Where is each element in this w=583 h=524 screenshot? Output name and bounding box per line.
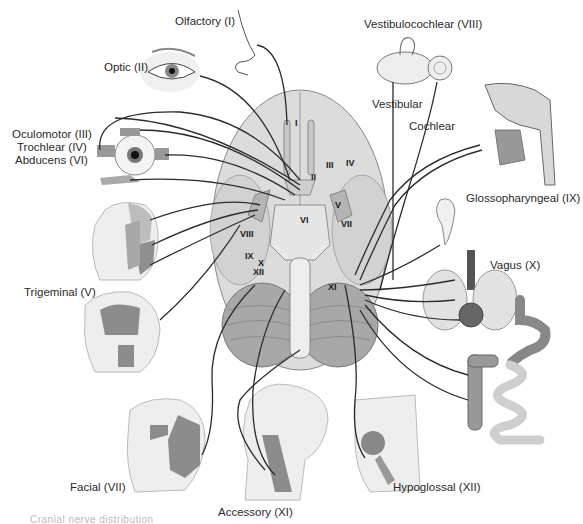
eye-illustration — [140, 49, 200, 92]
label-optic: Optic (II) — [104, 61, 148, 74]
label-trigeminal: Trigeminal (V) — [24, 286, 96, 299]
label-oculomotor: Oculomotor (III) — [12, 128, 92, 141]
numeral-VIII: VIII — [240, 229, 254, 239]
inner-ear-illustration — [377, 38, 452, 84]
numeral-VI: VI — [300, 215, 309, 225]
numeral-II: II — [311, 172, 316, 182]
label-vagus: Vagus (X) — [490, 259, 540, 272]
trigeminal-head-illustration — [92, 202, 158, 280]
accessory-head-illustration — [243, 384, 328, 500]
cranial-nerves-diagram: Olfactory (I) Optic (II) Oculomotor (III… — [0, 0, 583, 524]
label-accessory: Accessory (XI) — [218, 506, 293, 519]
numeral-III: III — [326, 160, 334, 170]
numeral-IV: IV — [346, 158, 355, 168]
eyeball-muscles-illustration — [97, 128, 169, 185]
label-hypoglossal: Hypoglossal (XII) — [393, 481, 481, 494]
numeral-XI: XI — [328, 282, 337, 292]
figure-caption: Cranial nerve distribution — [30, 514, 154, 524]
label-vestibulocochlear: Vestibulocochlear (VIII) — [364, 18, 482, 31]
numeral-XII: XII — [253, 267, 264, 277]
label-cochlear: Cochlear — [409, 120, 455, 133]
label-abducens: Abducens (VI) — [15, 154, 88, 167]
label-glossopharyngeal: Glossopharyngeal (IX) — [466, 192, 580, 205]
facial-head-illustration — [127, 399, 205, 492]
label-trochlear: Trochlear (IV) — [17, 141, 87, 154]
head-muscles-illustration — [84, 292, 160, 372]
hypoglossal-head-illustration — [355, 395, 420, 492]
label-facial: Facial (VII) — [70, 481, 126, 494]
numeral-V: V — [335, 200, 341, 210]
head-sagittal-illustration — [485, 83, 555, 185]
label-olfactory: Olfactory (I) — [175, 15, 235, 28]
nose-illustration — [235, 10, 255, 75]
numeral-IX: IX — [245, 251, 254, 261]
numeral-VII: VII — [341, 219, 352, 229]
ear-illustration — [436, 199, 455, 245]
numeral-I: I — [295, 118, 298, 128]
label-vestibular: Vestibular — [372, 98, 423, 111]
